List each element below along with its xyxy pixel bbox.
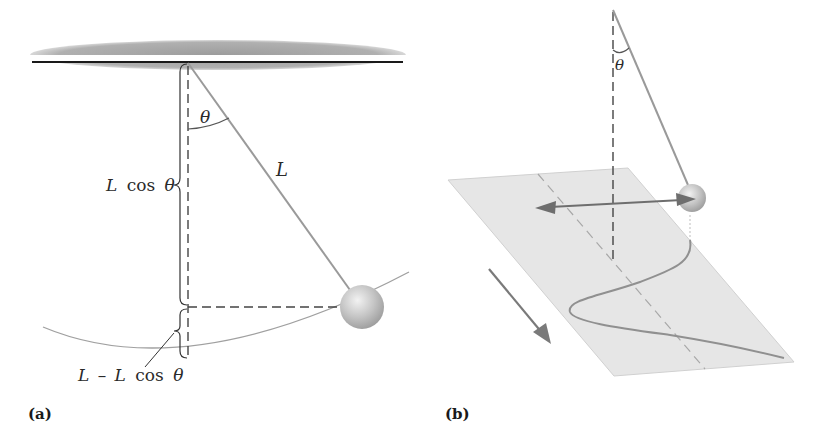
panel-b-label: (b) [445, 405, 470, 423]
panel-a: θ L L cos θ L – L cos θ (a) [28, 40, 409, 423]
pendulum-bob [340, 285, 384, 329]
length-label: L [275, 159, 288, 180]
height-label: L cos θ [105, 175, 175, 195]
angle-label-b: θ [615, 56, 624, 74]
panel-b: θ (b) [445, 10, 794, 423]
angle-label: θ [200, 107, 210, 127]
height-brace [174, 64, 187, 305]
recording-plane [448, 168, 794, 376]
pendulum-string-b [613, 10, 688, 185]
pendulum-string [188, 63, 350, 290]
angle-arc-b [613, 48, 629, 53]
drop-label: L – L cos θ [77, 365, 183, 385]
drop-brace [174, 309, 187, 358]
drop-label-leader [145, 333, 174, 367]
pendulum-figure: θ L L cos θ L – L cos θ (a) [0, 0, 825, 447]
panel-a-label: (a) [28, 405, 52, 423]
